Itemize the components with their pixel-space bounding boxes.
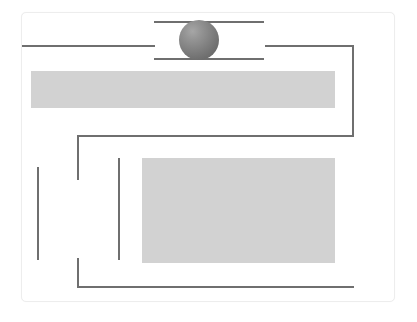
lower-bracket-left-rise [77, 258, 79, 288]
diagram-canvas [0, 0, 417, 322]
outer-left-tick [37, 167, 39, 260]
mid-bracket-top-arm [77, 135, 354, 137]
lower-gray-block [142, 158, 335, 263]
lower-bracket-bottom-arm [77, 286, 354, 288]
upper-gray-band [31, 71, 335, 108]
shaded-sphere [179, 20, 219, 60]
right-feed-line [265, 45, 354, 47]
right-return-drop [352, 45, 354, 137]
inner-left-tick [118, 158, 120, 260]
sphere-bottom-rail [154, 58, 264, 60]
mid-bracket-left-drop [77, 135, 79, 180]
left-feed-line [22, 45, 155, 47]
